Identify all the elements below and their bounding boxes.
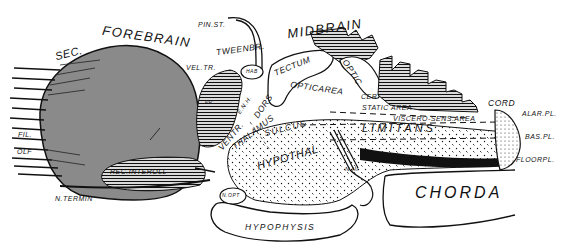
label-n-iii: N III [345, 166, 359, 172]
label-n-termin: N.TERMIN [55, 195, 93, 202]
label-rec-interoll: REC.INTEROLL [110, 168, 167, 175]
label-pin-st: PIN.ST. [198, 21, 225, 28]
label-hab: HAB [246, 69, 258, 74]
label-cer: CER [361, 93, 377, 100]
label-viscero-sens-area: VISCERO-SENS.AREA [393, 115, 475, 122]
label-limitans: LIMITANS [362, 123, 436, 134]
label-pp: PP [205, 100, 213, 105]
label-chorda: CHORDA [415, 185, 502, 201]
label-alar-pl: ALAR.PL. [522, 110, 557, 117]
label-ncops: N.OPT [222, 193, 240, 198]
label-hypophysis: HYPOPHYSIS [245, 223, 315, 232]
brain-diagram: SEC. FOREBRAIN PIN.ST. TWEENBR. MIDBRAIN… [0, 0, 575, 252]
label-olf: OLF [17, 148, 32, 155]
label-cord: CORD [488, 99, 515, 108]
label-vel-tr: VEL.TR. [186, 64, 216, 71]
label-fil: FIL. [18, 131, 32, 138]
label-bas-pl: BAS.PL. [525, 133, 555, 140]
label-floorpl: FLOORPL. [516, 156, 555, 163]
label-static-area: STATIC AREA [362, 104, 412, 111]
